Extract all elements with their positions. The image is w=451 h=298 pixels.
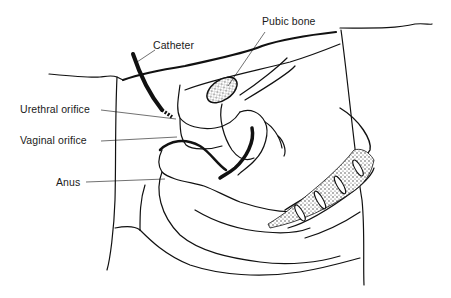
rectum-outline <box>159 150 305 212</box>
label-vaginal-orifice: Vaginal orifice <box>20 134 87 146</box>
inner-abdominal-line <box>185 44 340 90</box>
catheter-tip <box>162 110 172 117</box>
label-catheter: Catheter <box>153 39 194 51</box>
sacrum-vertebrae <box>268 149 374 228</box>
skin-line-right <box>340 24 432 28</box>
anatomy-diagram: Catheter Pubic bone Urethral orifice Vag… <box>0 0 451 298</box>
body-edge-left <box>107 77 117 270</box>
catheter-tube <box>133 54 162 110</box>
leader-pubic-bone <box>228 32 265 86</box>
label-anus: Anus <box>56 176 80 188</box>
label-urethral-orifice: Urethral orifice <box>20 103 90 115</box>
leader-catheter <box>137 50 155 62</box>
pubic-bone <box>202 72 241 108</box>
leader-urethral-orifice <box>101 110 176 119</box>
buttock-curve-outer <box>140 230 360 275</box>
leader-vaginal-orifice <box>101 137 177 141</box>
label-pubic-bone: Pubic bone <box>262 15 316 27</box>
leader-anus <box>86 179 165 182</box>
diagram-drawing <box>0 0 451 298</box>
skin-line-left <box>49 74 123 80</box>
